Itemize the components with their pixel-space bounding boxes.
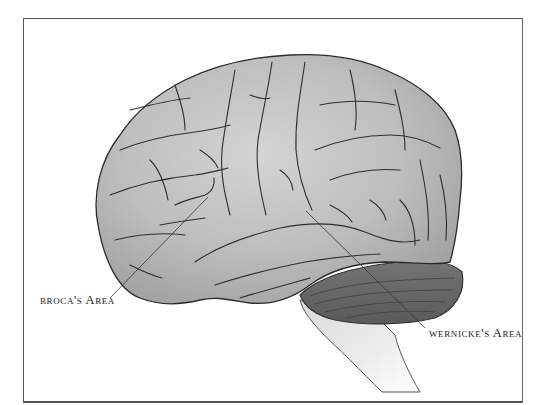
brain-illustration: [0, 0, 546, 405]
wernicke-area-label: wernicke's Area: [429, 326, 522, 341]
broca-area-label: broca's Area: [40, 293, 115, 308]
